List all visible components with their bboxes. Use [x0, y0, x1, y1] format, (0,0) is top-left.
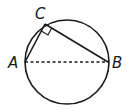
circle-triangle-figure: C A B — [0, 0, 129, 112]
label-a: A — [7, 54, 18, 72]
label-c: C — [35, 5, 46, 23]
segment-ac — [25, 24, 45, 62]
segment-cb — [45, 24, 108, 62]
diagram: C A B — [0, 0, 129, 112]
label-b: B — [112, 54, 122, 72]
